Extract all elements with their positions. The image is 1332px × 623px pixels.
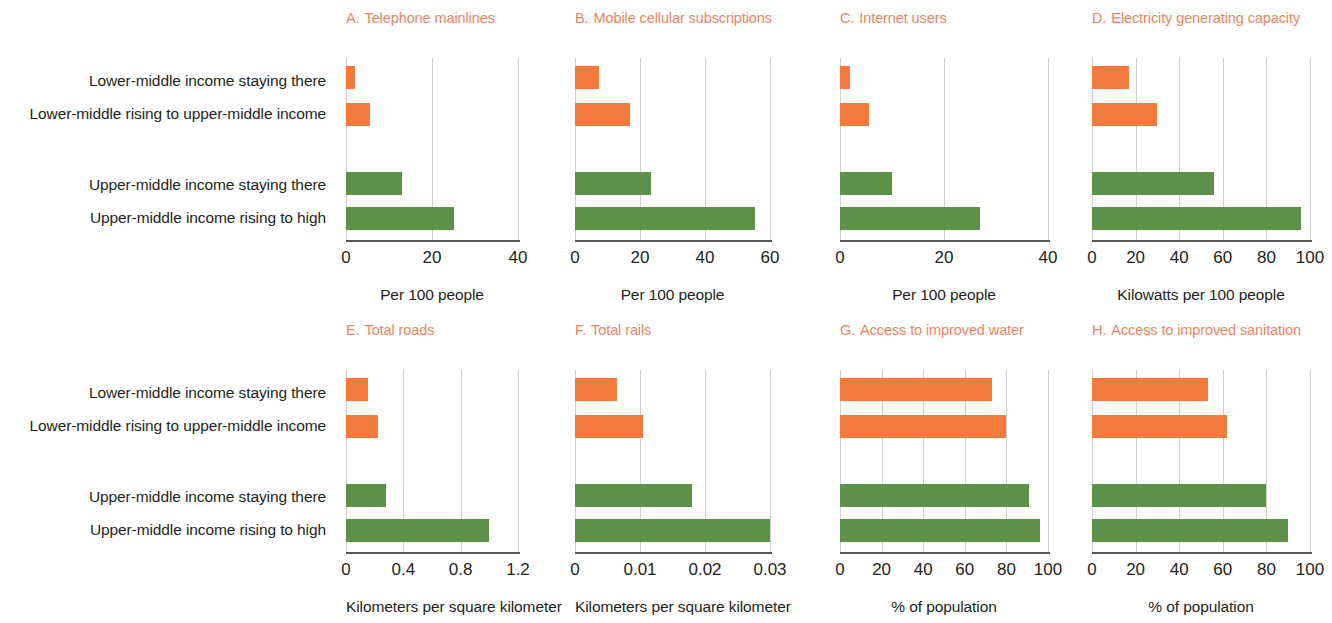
- category-label: Lower-middle income staying there: [89, 384, 326, 401]
- panel-d: D.Electricity generating capacity 020406…: [1092, 0, 1324, 305]
- bar: [840, 66, 850, 89]
- bar: [575, 103, 630, 126]
- x-axis-title: % of population: [840, 598, 1048, 616]
- bar: [346, 519, 489, 542]
- bar: [840, 378, 992, 401]
- x-tick-label: 40: [914, 560, 933, 580]
- panel-letter: D.: [1092, 10, 1106, 26]
- panel-a: A.Telephone mainlines 02040Per 100 peopl…: [346, 0, 576, 305]
- plot-area-e: 00.40.81.2Kilometers per square kilomete…: [346, 370, 518, 552]
- x-tick-label: 0.8: [449, 560, 473, 580]
- bar: [1092, 66, 1129, 89]
- panel-title-text: Total rails: [591, 322, 651, 338]
- bar: [1092, 484, 1266, 507]
- category-label: Upper-middle income rising to high: [90, 521, 326, 538]
- category-label: Upper-middle income rising to high: [90, 209, 326, 226]
- gridline: [770, 370, 771, 552]
- bar: [346, 103, 370, 126]
- x-tick-label: 20: [872, 560, 891, 580]
- x-tick-label: 0: [570, 248, 579, 268]
- gridline: [1048, 58, 1049, 240]
- x-tick-label: 0.4: [392, 560, 416, 580]
- panel-letter: H.: [1092, 322, 1106, 338]
- gridline: [770, 58, 771, 240]
- x-tick-label: 60: [1213, 560, 1232, 580]
- x-axis-line: [346, 240, 520, 242]
- panel-title-f: F.Total rails: [575, 322, 651, 338]
- bar: [1092, 378, 1208, 401]
- panel-title-text: Access to improved sanitation: [1111, 322, 1301, 338]
- x-tick-label: 40: [1170, 248, 1189, 268]
- panel-title-text: Total roads: [365, 322, 435, 338]
- gridline: [1310, 370, 1311, 552]
- x-tick-label: 0: [1087, 560, 1096, 580]
- plot-area-g: 020406080100% of population: [840, 370, 1048, 552]
- x-tick-label: 80: [1257, 248, 1276, 268]
- bar: [840, 519, 1040, 542]
- plot-area-d: 020406080100Kilowatts per 100 people: [1092, 58, 1310, 240]
- panel-b: B.Mobile cellular subscriptions 0204060P…: [575, 0, 805, 305]
- panel-title-h: H.Access to improved sanitation: [1092, 322, 1301, 338]
- panel-letter: C.: [840, 10, 854, 26]
- panel-title-d: D.Electricity generating capacity: [1092, 10, 1300, 26]
- panel-title-text: Electricity generating capacity: [1111, 10, 1300, 26]
- panel-h: H.Access to improved sanitation 02040608…: [1092, 312, 1324, 617]
- plot-area-a: 02040Per 100 people: [346, 58, 518, 240]
- figure-panel-grid: Lower-middle income staying there Lower-…: [0, 0, 1332, 623]
- gridline: [518, 370, 519, 552]
- category-label: Upper-middle income staying there: [89, 488, 326, 505]
- bar: [840, 172, 892, 195]
- panel-title-c: C.Internet users: [840, 10, 947, 26]
- bar: [1092, 103, 1157, 126]
- x-tick-label: 100: [1034, 560, 1062, 580]
- bar: [575, 415, 643, 438]
- category-label: Lower-middle income staying there: [89, 72, 326, 89]
- bar: [346, 378, 368, 401]
- x-tick-label: 80: [997, 560, 1016, 580]
- plot-area-f: 00.010.020.03Kilometers per square kilom…: [575, 370, 770, 552]
- plot-area-h: 020406080100% of population: [1092, 370, 1310, 552]
- bar: [840, 207, 980, 230]
- x-tick-label: 0: [341, 248, 350, 268]
- x-tick-label: 0: [835, 560, 844, 580]
- plot-area-b: 0204060Per 100 people: [575, 58, 770, 240]
- x-tick-label: 20: [1126, 560, 1145, 580]
- bar: [575, 172, 651, 195]
- bar: [1092, 207, 1301, 230]
- x-axis-line: [346, 552, 520, 554]
- x-tick-label: 40: [1039, 248, 1058, 268]
- x-axis-line: [575, 240, 772, 242]
- x-tick-label: 100: [1296, 248, 1324, 268]
- x-tick-label: 60: [955, 560, 974, 580]
- category-axis-labels-top: Lower-middle income staying there Lower-…: [0, 58, 336, 240]
- plot-area-c: 02040Per 100 people: [840, 58, 1048, 240]
- bar: [1092, 519, 1288, 542]
- panel-g: G.Access to improved water 020406080100%…: [840, 312, 1076, 617]
- x-tick-label: 20: [1126, 248, 1145, 268]
- x-tick-label: 0.02: [688, 560, 721, 580]
- x-tick-label: 40: [509, 248, 528, 268]
- x-axis-title: Kilometers per square kilometer: [346, 598, 518, 616]
- panel-title-text: Mobile cellular subscriptions: [594, 10, 772, 26]
- x-tick-label: 20: [631, 248, 650, 268]
- x-tick-label: 0: [835, 248, 844, 268]
- x-axis-line: [1092, 240, 1312, 242]
- panel-letter: E.: [346, 322, 360, 338]
- bar: [840, 484, 1029, 507]
- panel-title-text: Internet users: [859, 10, 946, 26]
- panel-title-g: G.Access to improved water: [840, 322, 1024, 338]
- bar: [575, 519, 770, 542]
- bar: [1092, 415, 1227, 438]
- gridline: [518, 58, 519, 240]
- x-tick-label: 0: [570, 560, 579, 580]
- x-tick-label: 40: [1170, 560, 1189, 580]
- x-tick-label: 20: [423, 248, 442, 268]
- category-label: Lower-middle rising to upper-middle inco…: [30, 417, 326, 434]
- x-tick-label: 80: [1257, 560, 1276, 580]
- x-axis-title: Kilowatts per 100 people: [1092, 286, 1310, 304]
- category-axis-labels-bottom: Lower-middle income staying there Lower-…: [0, 370, 336, 552]
- x-tick-label: 40: [696, 248, 715, 268]
- x-axis-line: [840, 552, 1050, 554]
- x-axis-title: Per 100 people: [346, 286, 518, 304]
- chart-row-top: Lower-middle income staying there Lower-…: [0, 0, 1332, 305]
